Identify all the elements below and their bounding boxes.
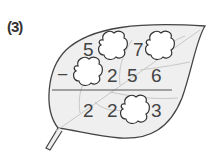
leaf-stem xyxy=(46,128,62,150)
blank-box-row3-col3 xyxy=(121,95,150,123)
blank-box-row1-col2 xyxy=(99,31,128,59)
difference-digit-4: 3 xyxy=(151,101,162,120)
difference-digit-1: 2 xyxy=(83,101,94,120)
subtrahend-digit-4: 6 xyxy=(151,66,162,85)
minus-operator: − xyxy=(57,65,68,84)
subtrahend-digit-3: 5 xyxy=(127,66,138,85)
blank-box-row2-col1 xyxy=(74,57,103,85)
minuend-digit-1: 5 xyxy=(83,40,94,59)
blank-box-row1-col4 xyxy=(146,31,175,59)
subtrahend-digit-2: 2 xyxy=(107,66,118,85)
difference-digit-2: 2 xyxy=(107,101,118,120)
minuend-digit-3: 7 xyxy=(133,40,144,59)
